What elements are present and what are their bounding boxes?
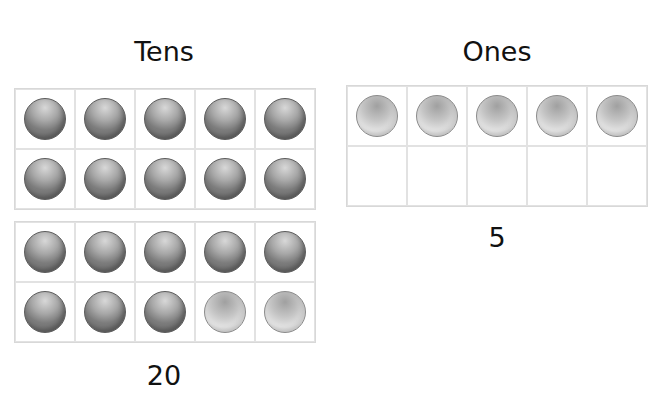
- frame-cell: [15, 89, 75, 149]
- dark-counter-icon: [24, 231, 66, 273]
- dark-counter-icon: [84, 158, 126, 200]
- frame-cell: [255, 282, 315, 342]
- light-counter-icon: [204, 291, 246, 333]
- frame-cell: [347, 86, 407, 146]
- dark-counter-icon: [144, 231, 186, 273]
- frame-cell: [195, 282, 255, 342]
- dark-counter-icon: [264, 158, 306, 200]
- dark-counter-icon: [264, 231, 306, 273]
- frame-cell: [347, 146, 407, 206]
- frame-cell: [135, 89, 195, 149]
- frame-cell: [195, 222, 255, 282]
- tens-frame-1: [14, 88, 316, 210]
- tens-value: 20: [14, 360, 314, 391]
- frame-cell: [527, 146, 587, 206]
- frame-cell: [75, 149, 135, 209]
- light-counter-icon: [476, 95, 518, 137]
- dark-counter-icon: [144, 158, 186, 200]
- frame-cell: [587, 146, 647, 206]
- tens-title: Tens: [14, 36, 314, 67]
- ones-value: 5: [346, 222, 648, 253]
- dark-counter-icon: [84, 291, 126, 333]
- light-counter-icon: [356, 95, 398, 137]
- dark-counter-icon: [204, 158, 246, 200]
- frame-cell: [135, 222, 195, 282]
- dark-counter-icon: [84, 231, 126, 273]
- light-counter-icon: [416, 95, 458, 137]
- frame-cell: [15, 282, 75, 342]
- tens-frame-2: [14, 221, 316, 343]
- light-counter-icon: [596, 95, 638, 137]
- frame-cell: [587, 86, 647, 146]
- frame-cell: [135, 149, 195, 209]
- frame-cell: [75, 89, 135, 149]
- dark-counter-icon: [144, 291, 186, 333]
- frame-cell: [467, 146, 527, 206]
- frame-cell: [195, 149, 255, 209]
- light-counter-icon: [264, 291, 306, 333]
- light-counter-icon: [536, 95, 578, 137]
- frame-cell: [15, 222, 75, 282]
- frame-cell: [407, 146, 467, 206]
- dark-counter-icon: [144, 98, 186, 140]
- frame-cell: [15, 149, 75, 209]
- dark-counter-icon: [84, 98, 126, 140]
- dark-counter-icon: [204, 98, 246, 140]
- frame-cell: [195, 89, 255, 149]
- frame-cell: [135, 282, 195, 342]
- frame-cell: [255, 149, 315, 209]
- frame-cell: [255, 222, 315, 282]
- dark-counter-icon: [24, 291, 66, 333]
- frame-cell: [407, 86, 467, 146]
- dark-counter-icon: [24, 98, 66, 140]
- frame-cell: [527, 86, 587, 146]
- dark-counter-icon: [264, 98, 306, 140]
- dark-counter-icon: [204, 231, 246, 273]
- ones-frame: [346, 85, 648, 207]
- frame-cell: [467, 86, 527, 146]
- dark-counter-icon: [24, 158, 66, 200]
- frame-cell: [75, 282, 135, 342]
- frame-cell: [255, 89, 315, 149]
- ones-title: Ones: [346, 36, 648, 67]
- frame-cell: [75, 222, 135, 282]
